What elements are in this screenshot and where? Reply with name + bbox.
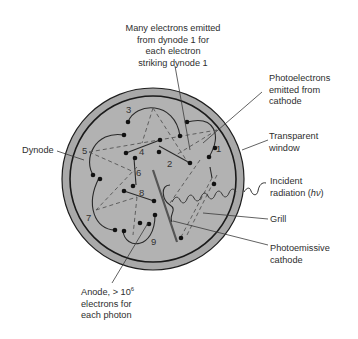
label-transparent-window: Transparent window — [269, 131, 318, 154]
label-anode: Anode, > 106 electrons for each photon — [81, 284, 134, 322]
label-photoelectrons: Photoelectrons emitted from cathode — [269, 73, 330, 108]
dynode-1: 1 — [216, 143, 221, 154]
label-dynode: Dynode — [22, 145, 54, 157]
label-incident-radiation: Incident radiation (hν) — [270, 176, 324, 199]
dynode-9: 9 — [151, 236, 156, 247]
dynode-2: 2 — [167, 158, 172, 169]
dynode-8: 8 — [139, 187, 144, 198]
dynode-5: 5 — [82, 145, 87, 156]
dynode-4: 4 — [139, 146, 144, 157]
label-many-electrons: Many electrons emitted from dynode 1 for… — [122, 23, 224, 69]
incident-radiation-wave-outer — [244, 183, 266, 195]
label-photoemissive-cathode: Photoemissive cathode — [270, 243, 330, 266]
dynode-6: 6 — [136, 167, 141, 178]
label-grill: Grill — [270, 214, 286, 226]
dynode-3: 3 — [126, 104, 131, 115]
dynode-7: 7 — [86, 212, 91, 223]
